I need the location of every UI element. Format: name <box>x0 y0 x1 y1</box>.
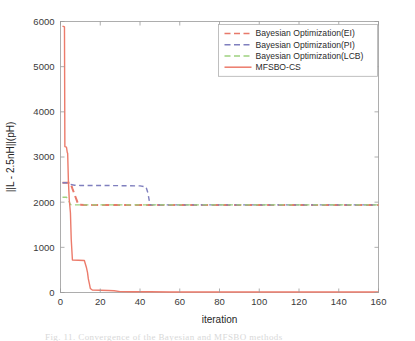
x-tick-label: 160 <box>371 296 387 307</box>
y-tick-label: 3000 <box>33 151 54 162</box>
x-tick-label: 40 <box>135 296 146 307</box>
y-axis-title: ||L - 2.5nH||(pH) <box>5 122 16 193</box>
series-line <box>62 183 378 205</box>
x-axis-title: iteration <box>202 314 238 325</box>
x-tick-label: 60 <box>174 296 185 307</box>
x-tick-label: 80 <box>214 296 225 307</box>
y-tick-label: 6000 <box>33 16 54 27</box>
convergence-line-chart: 0204060801001201401600100020003000400050… <box>0 0 415 341</box>
legend-item-label[interactable]: MFSBO-CS <box>256 62 302 72</box>
legend-item-label[interactable]: Bayesian Optimization(PI) <box>256 40 355 50</box>
x-tick-label: 120 <box>291 296 307 307</box>
y-tick-label: 1000 <box>33 242 54 253</box>
series-line <box>62 197 378 205</box>
y-tick-label: 0 <box>49 287 54 298</box>
series-line <box>62 183 378 205</box>
x-tick-label: 20 <box>95 296 106 307</box>
y-tick-label: 5000 <box>33 61 54 72</box>
chart-legend[interactable]: Bayesian Optimization(EI)Bayesian Optimi… <box>219 25 378 77</box>
x-tick-label: 140 <box>331 296 347 307</box>
y-tick-label: 2000 <box>33 197 54 208</box>
figure-caption: Fig. 11. Convergence of the Bayesian and… <box>45 332 375 341</box>
legend-item-label[interactable]: Bayesian Optimization(EI) <box>256 28 355 38</box>
figure-container: 0204060801001201401600100020003000400050… <box>0 0 415 341</box>
y-tick-label: 4000 <box>33 106 54 117</box>
x-tick-label: 100 <box>251 296 267 307</box>
legend-item-label[interactable]: Bayesian Optimization(LCB) <box>256 51 364 61</box>
x-tick-label: 0 <box>58 296 63 307</box>
